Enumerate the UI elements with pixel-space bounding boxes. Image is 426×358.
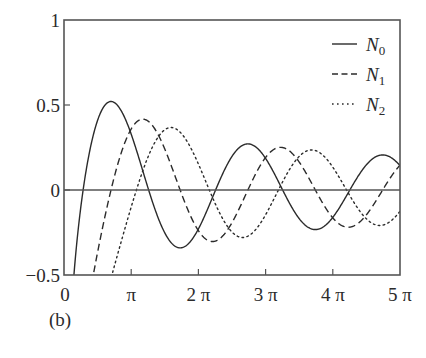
bessel-neumann-chart: 0π2 π3 π4 π5 π −0.500.51 N0N1N2 [0,0,426,358]
x-tick-label: 4 π [321,284,345,305]
legend-label-n1: N1 [365,64,385,88]
x-tick-label: 5 π [388,284,412,305]
x-tick-label: π [126,284,136,305]
plot-frame [64,20,400,275]
y-tick-label: 0.5 [36,95,60,116]
legend-label-n0: N0 [365,34,385,58]
x-tick-label: 2 π [186,284,210,305]
panel-label: (b) [49,309,71,331]
y-tick-label: 1 [51,10,61,31]
legend-label-n2: N2 [365,94,385,118]
x-tick-label: 3 π [254,284,278,305]
legend: N0N1N2 [332,34,385,118]
y-tick-label: 0 [51,180,61,201]
plot-curves [74,101,400,283]
y-tick-label: −0.5 [26,265,60,286]
x-tick-label: 0 [60,284,70,305]
